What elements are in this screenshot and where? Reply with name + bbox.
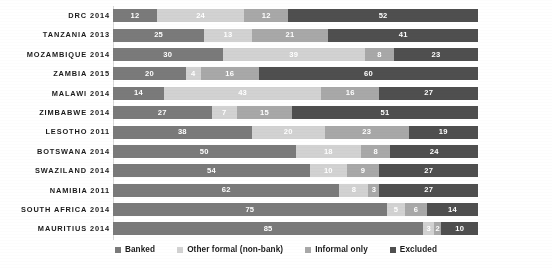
legend-label: Informal only <box>315 246 368 254</box>
legend-label: Banked <box>125 246 155 254</box>
bar-track: 14431627 <box>113 87 478 100</box>
bar-value-label: 27 <box>424 186 433 194</box>
bar-segment: 12 <box>113 9 157 22</box>
bar-segment: 14 <box>113 87 164 100</box>
bar-segment: 12 <box>244 9 288 22</box>
bar-segment: 54 <box>113 164 310 177</box>
bar-track: 5410927 <box>113 164 478 177</box>
bar-segment: 3 <box>423 222 434 235</box>
bar-value-label: 41 <box>399 31 408 39</box>
category-label: ZIMBABWE 2014 <box>0 109 113 116</box>
bar-segment: 16 <box>201 67 259 80</box>
bar-value-label: 2 <box>436 225 440 233</box>
bar-track: 38202319 <box>113 126 478 139</box>
category-label: NAMIBIA 2011 <box>0 187 113 194</box>
bar-segment: 21 <box>252 29 329 42</box>
category-label: MAURITIUS 2014 <box>0 225 113 232</box>
bar-row: DRC 201412241252 <box>0 6 552 25</box>
bar-value-label: 3 <box>427 225 431 233</box>
bar-row: MAURITIUS 2014853210 <box>0 219 552 238</box>
bar-segment: 14 <box>427 203 478 216</box>
bar-segment: 27 <box>379 184 478 197</box>
bar-value-label: 9 <box>361 167 365 175</box>
bar-value-label: 27 <box>424 167 433 175</box>
bar-segment: 27 <box>379 87 478 100</box>
bar-value-label: 12 <box>130 12 139 20</box>
bar-segment: 50 <box>113 145 296 158</box>
bar-value-label: 5 <box>394 206 398 214</box>
legend-swatch-icon <box>305 247 311 253</box>
bar-segment: 62 <box>113 184 339 197</box>
category-label: DRC 2014 <box>0 12 113 19</box>
bar-segment: 85 <box>113 222 423 235</box>
bar-value-label: 25 <box>154 31 163 39</box>
bar-segment: 10 <box>310 164 347 177</box>
bar-segment: 23 <box>325 126 409 139</box>
bar-row: TANZANIA 201325132141 <box>0 25 552 44</box>
legend-item[interactable]: Banked <box>115 246 155 254</box>
bar-row: LESOTHO 201138202319 <box>0 122 552 141</box>
category-label: LESOTHO 2011 <box>0 128 113 135</box>
bar-segment: 7 <box>212 106 238 119</box>
bar-segment: 15 <box>237 106 292 119</box>
bar-value-label: 3 <box>372 186 376 194</box>
bar-value-label: 8 <box>352 186 356 194</box>
bar-value-label: 15 <box>260 109 269 117</box>
bar-value-label: 21 <box>286 31 295 39</box>
bar-row: MOZAMBIQUE 20143039823 <box>0 45 552 64</box>
stacked-bar-chart: DRC 201412241252TANZANIA 201325132141MOZ… <box>0 0 552 268</box>
bar-track: 5018824 <box>113 145 478 158</box>
category-label: ZAMBIA 2015 <box>0 70 113 77</box>
bar-segment: 60 <box>259 67 478 80</box>
bar-segment: 25 <box>113 29 204 42</box>
bar-value-label: 50 <box>200 148 209 156</box>
bar-segment: 23 <box>394 48 478 61</box>
bar-segment: 24 <box>157 9 245 22</box>
bar-segment: 52 <box>288 9 478 22</box>
legend-swatch-icon <box>390 247 396 253</box>
category-label: MOZAMBIQUE 2014 <box>0 51 113 58</box>
bar-track: 853210 <box>113 222 478 235</box>
bar-value-label: 27 <box>424 89 433 97</box>
bar-value-label: 4 <box>191 70 195 78</box>
bar-segment: 20 <box>252 126 325 139</box>
bar-value-label: 19 <box>439 128 448 136</box>
chart-legend: BankedOther formal (non-bank)Informal on… <box>0 246 552 254</box>
bar-value-label: 43 <box>238 89 247 97</box>
bar-value-label: 27 <box>158 109 167 117</box>
bar-value-label: 20 <box>145 70 154 78</box>
bar-segment: 8 <box>361 145 390 158</box>
category-label: TANZANIA 2013 <box>0 31 113 38</box>
legend-item[interactable]: Informal only <box>305 246 368 254</box>
bar-track: 755614 <box>113 203 478 216</box>
legend-label: Excluded <box>400 246 437 254</box>
bar-segment: 8 <box>365 48 394 61</box>
bar-segment: 13 <box>204 29 251 42</box>
bar-row: NAMIBIA 2011628327 <box>0 181 552 200</box>
plot-area: DRC 201412241252TANZANIA 201325132141MOZ… <box>0 6 552 240</box>
legend-item[interactable]: Excluded <box>390 246 437 254</box>
bar-value-label: 54 <box>207 167 216 175</box>
bar-segment: 3 <box>368 184 379 197</box>
legend-item[interactable]: Other formal (non-bank) <box>177 246 283 254</box>
bar-row: SOUTH AFRICA 2014755614 <box>0 200 552 219</box>
bar-segment: 10 <box>441 222 478 235</box>
bar-segment: 8 <box>339 184 368 197</box>
bar-row: BOTSWANA 20145018824 <box>0 142 552 161</box>
bar-value-label: 75 <box>245 206 254 214</box>
bar-segment: 2 <box>434 222 441 235</box>
category-label: SOUTH AFRICA 2014 <box>0 206 113 213</box>
bar-row: ZIMBABWE 20142771551 <box>0 103 552 122</box>
category-label: BOTSWANA 2014 <box>0 148 113 155</box>
bar-track: 2771551 <box>113 106 478 119</box>
bar-track: 628327 <box>113 184 478 197</box>
bar-track: 12241252 <box>113 9 478 22</box>
bar-segment: 9 <box>347 164 380 177</box>
bar-segment: 39 <box>223 48 365 61</box>
bar-segment: 30 <box>113 48 223 61</box>
bar-segment: 6 <box>405 203 427 216</box>
bar-segment: 75 <box>113 203 387 216</box>
bar-value-label: 60 <box>364 70 373 78</box>
bar-value-label: 7 <box>222 109 226 117</box>
legend-label: Other formal (non-bank) <box>187 246 283 254</box>
